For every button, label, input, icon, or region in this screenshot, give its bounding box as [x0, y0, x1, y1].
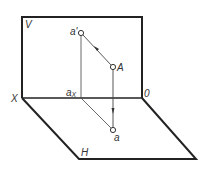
label-ax-subscript: X — [71, 91, 77, 98]
label-a-prime: a' — [70, 26, 79, 37]
label-x-axis: X — [10, 93, 18, 104]
arrow-icon — [94, 46, 99, 51]
projection-diagram: V H X 0 a' A a aX — [0, 0, 207, 170]
v-plane — [22, 17, 142, 98]
label-ax: aX — [66, 87, 77, 98]
point-A — [110, 64, 115, 69]
label-origin: 0 — [144, 88, 150, 99]
label-h-plane: H — [81, 147, 89, 158]
label-a: a — [114, 132, 120, 143]
h-plane — [22, 98, 196, 159]
label-v-plane: V — [25, 19, 33, 30]
label-A: A — [116, 62, 124, 73]
point-a-prime — [78, 30, 83, 35]
projector-ax-to-a — [81, 98, 111, 128]
arrow-icon — [112, 108, 115, 114]
